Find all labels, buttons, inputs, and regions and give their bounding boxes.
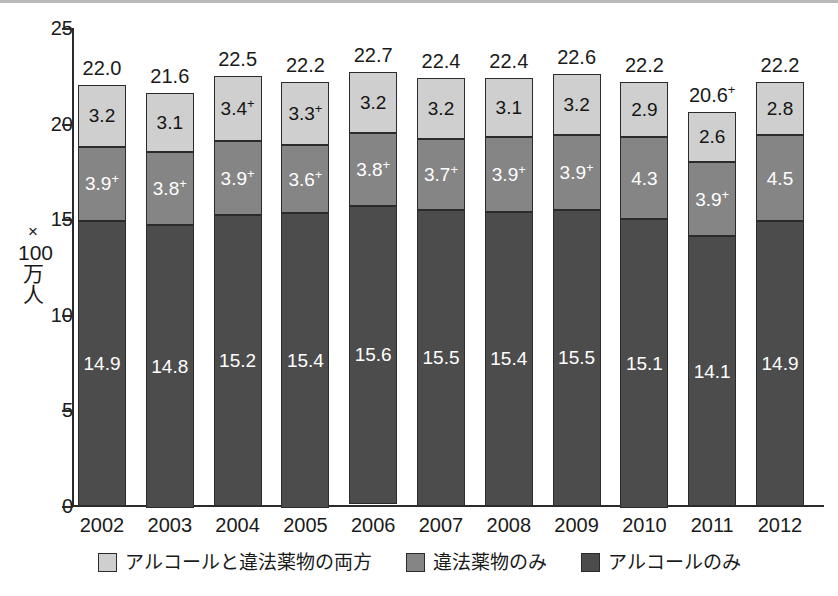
bar-segment[interactable]: 3.9+ — [214, 141, 262, 216]
bar-segment-label: 3.6+ — [288, 170, 322, 189]
legend-label: 違法薬物のみ — [433, 552, 547, 573]
bar-group[interactable]: 2.94.315.122.2 — [620, 82, 668, 506]
bar-segment[interactable]: 3.2 — [553, 74, 601, 135]
bar-segment-label: 15.4 — [490, 349, 527, 368]
significance-marker: + — [722, 186, 730, 201]
y-tick-mark — [62, 410, 73, 412]
bar-segment[interactable]: 14.8 — [146, 225, 194, 508]
bar-segment-label: 3.8+ — [356, 160, 390, 179]
legend-item[interactable]: アルコールのみ — [581, 552, 741, 573]
significance-marker: + — [111, 171, 119, 186]
bar-group[interactable]: 3.3+3.6+15.422.2 — [281, 82, 329, 506]
bar-segment[interactable]: 3.8+ — [349, 133, 397, 206]
legend-label: アルコールと違法薬物の両方 — [125, 552, 372, 573]
bar-segment[interactable]: 14.9 — [756, 221, 804, 506]
legend-label: アルコールのみ — [608, 552, 741, 573]
bar-segment-label: 14.8 — [151, 357, 188, 376]
bar-group[interactable]: 2.84.514.922.2 — [756, 82, 804, 506]
bar-segment[interactable]: 3.9+ — [553, 135, 601, 210]
bar-segment-label: 3.9+ — [560, 163, 594, 182]
bar-group[interactable]: 3.13.8+14.821.6 — [146, 93, 194, 506]
y-tick-mark — [62, 124, 73, 126]
bar-segment[interactable]: 14.9 — [78, 221, 126, 506]
stacked-bar-chart: 0510152025 × 100 万 人 3.23.9+14.922.03.13… — [0, 0, 838, 596]
bar-segment-label: 15.5 — [558, 348, 595, 367]
bar-segment-label: 3.2 — [563, 95, 589, 114]
bar-segment[interactable]: 4.3 — [620, 137, 668, 219]
bar-segment[interactable]: 3.7+ — [417, 139, 465, 210]
significance-marker: + — [179, 176, 187, 191]
bar-segment[interactable]: 15.5 — [553, 210, 601, 506]
bar-segment[interactable]: 15.5 — [417, 210, 465, 506]
bar-group[interactable]: 3.13.9+15.422.4 — [485, 78, 533, 506]
significance-marker: + — [586, 160, 594, 175]
bar-segment[interactable]: 3.1 — [146, 93, 194, 152]
bar-segment[interactable]: 2.9 — [620, 82, 668, 137]
bar-segment[interactable]: 3.1 — [485, 78, 533, 137]
bar-segment-label: 15.5 — [423, 348, 460, 367]
bar-group[interactable]: 2.63.9+14.120.6+ — [688, 112, 736, 506]
bar-segment[interactable]: 3.6+ — [281, 145, 329, 214]
bar-segment-label: 3.2 — [89, 106, 115, 125]
bar-segment[interactable]: 3.2 — [78, 85, 126, 146]
bar-segment-label: 3.9+ — [695, 190, 729, 209]
significance-marker: + — [315, 100, 323, 115]
bar-segment[interactable]: 3.8+ — [146, 152, 194, 225]
bar-segment-label: 3.4+ — [221, 99, 255, 118]
bar-group[interactable]: 3.23.9+15.522.6 — [553, 74, 601, 506]
bar-segment[interactable]: 3.2 — [349, 72, 397, 133]
bar-segment-label: 3.9+ — [85, 174, 119, 193]
bar-segment[interactable]: 15.2 — [214, 215, 262, 506]
bar-segment[interactable]: 15.4 — [485, 212, 533, 506]
bar-segment[interactable]: 14.1 — [688, 236, 736, 506]
bar-segment-label: 2.9 — [631, 100, 657, 119]
bar-segment-label: 15.4 — [287, 351, 324, 370]
bar-segment-label: 3.2 — [428, 99, 454, 118]
bar-segment[interactable]: 3.9+ — [485, 137, 533, 212]
significance-marker: + — [247, 95, 255, 110]
bar-segment[interactable]: 4.5 — [756, 135, 804, 221]
bar-segment-label: 3.9+ — [221, 169, 255, 188]
bar-total-label: 20.6+ — [667, 85, 757, 105]
chart-legend: アルコールと違法薬物の両方違法薬物のみアルコールのみ — [0, 552, 838, 592]
bar-segment-label: 14.1 — [694, 362, 731, 381]
bar-segment-label: 15.6 — [355, 345, 392, 364]
bar-segment-label: 4.5 — [767, 169, 793, 188]
legend-item[interactable]: 違法薬物のみ — [406, 552, 547, 573]
y-axis-title-line-0: × — [18, 222, 48, 242]
significance-marker: + — [383, 157, 391, 172]
bar-segment-label: 2.6 — [699, 127, 725, 146]
bar-segment[interactable]: 3.3+ — [281, 82, 329, 145]
bar-segment[interactable]: 3.9+ — [78, 147, 126, 222]
y-tick-mark — [62, 219, 73, 221]
significance-marker: + — [728, 82, 736, 97]
bar-segment-label: 3.7+ — [424, 165, 458, 184]
bar-segment-label: 3.1 — [157, 113, 183, 132]
bar-segment-label: 3.3+ — [288, 104, 322, 123]
bar-total-label: 22.2 — [599, 55, 689, 75]
bar-group[interactable]: 3.23.9+14.922.0 — [78, 85, 126, 506]
bar-segment-label: 3.1 — [496, 98, 522, 117]
bar-segment-label: 14.9 — [84, 354, 121, 373]
bar-segment[interactable]: 3.4+ — [214, 76, 262, 141]
y-tick-mark — [62, 28, 73, 30]
bar-segment-label: 4.3 — [631, 169, 657, 188]
bar-segment-label: 15.1 — [626, 354, 663, 373]
bar-segment[interactable]: 15.4 — [281, 213, 329, 507]
bar-segment[interactable]: 3.9+ — [688, 162, 736, 237]
bar-segment[interactable]: 2.8 — [756, 82, 804, 136]
bar-segment[interactable]: 3.2 — [417, 78, 465, 139]
y-axis-title-line-3: 人 — [18, 284, 48, 305]
bar-segment-label: 3.9+ — [492, 165, 526, 184]
bar-segment[interactable]: 2.6 — [688, 112, 736, 162]
y-tick-mark — [62, 506, 73, 508]
y-axis-title-line-2: 万 — [18, 263, 48, 284]
bar-group[interactable]: 3.4+3.9+15.222.5 — [214, 76, 262, 506]
bar-group[interactable]: 3.23.7+15.522.4 — [417, 78, 465, 506]
legend-swatch-drugs-only — [406, 553, 425, 572]
significance-marker: + — [315, 166, 323, 181]
bar-segment[interactable]: 15.1 — [620, 219, 668, 508]
bar-group[interactable]: 3.23.8+15.622.7 — [349, 72, 397, 506]
legend-item[interactable]: アルコールと違法薬物の両方 — [98, 552, 372, 573]
bar-segment[interactable]: 15.6 — [349, 206, 397, 504]
